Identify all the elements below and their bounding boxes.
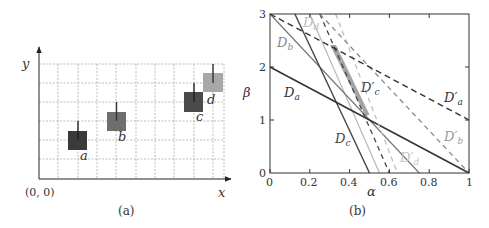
- panel-b: 0 0.2 0.4 0.6 0.8 1 0 1 2 3 α β (b) Da D…: [242, 8, 473, 218]
- x-tick-4: 0.8: [420, 176, 438, 189]
- y-tick-2: 2: [259, 61, 266, 74]
- x-tick-0: 0: [266, 176, 273, 189]
- label-Dpc: D′c: [360, 80, 379, 97]
- y-axis-label-b: β: [242, 85, 251, 100]
- label-Da: Da: [283, 85, 300, 102]
- caption-a: (a): [118, 204, 135, 218]
- origin-label: (0, 0): [25, 186, 55, 199]
- label-Dpd: D′d: [399, 150, 419, 167]
- x-axis-label-a: x: [218, 185, 226, 200]
- y-axis-label-a: y: [21, 56, 30, 71]
- x-tick-2: 0.4: [340, 176, 358, 189]
- label-Dc: Dc: [334, 131, 350, 148]
- square-label-c: c: [196, 109, 204, 124]
- label-Dpb: D′b: [443, 129, 463, 146]
- square-label-b: b: [118, 129, 126, 144]
- square-label-d: d: [207, 92, 215, 107]
- label-Dd: Dd: [302, 15, 319, 32]
- caption-b: (b): [349, 204, 366, 218]
- x-tick-1: 0.2: [300, 176, 318, 189]
- x-axis-label-b: α: [367, 184, 376, 199]
- y-tick-1: 1: [259, 114, 266, 127]
- y-tick-3: 3: [259, 8, 266, 21]
- square-label-a: a: [80, 148, 88, 163]
- label-Dpa: D′a: [443, 90, 463, 107]
- panel-a: a b c d y x (0, 0) (a): [21, 47, 231, 218]
- figure: a b c d y x (0, 0) (a): [0, 0, 489, 228]
- line-Dpa: [270, 14, 469, 120]
- y-tick-0: 0: [259, 167, 266, 180]
- label-Db: Db: [276, 35, 293, 52]
- x-tick-5: 1: [466, 176, 473, 189]
- x-tick-3: 0.6: [380, 176, 398, 189]
